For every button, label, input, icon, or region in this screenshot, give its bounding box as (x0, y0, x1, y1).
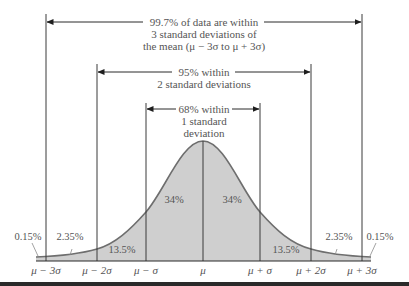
axis-label-plus-3-sigma: μ + 3σ (346, 264, 377, 276)
normal-distribution-diagram: 99.7% of data are within 3 standard devi… (0, 0, 409, 286)
bracket-1sigma-line2: 1 standard (181, 115, 227, 127)
axis-label-minus-2-sigma: μ − 2σ (81, 264, 112, 276)
axis-label-mean: μ (199, 264, 206, 276)
axis-label-minus-1-sigma: μ − σ (133, 264, 158, 276)
region-right-1-2: 13.5% (272, 244, 299, 255)
bracket-1sigma-line3: deviation (184, 127, 225, 139)
region-left-1-2: 13.5% (108, 244, 135, 255)
leader-left-tail (32, 243, 38, 256)
region-left-2-3: 2.35% (56, 231, 83, 242)
region-right-0-1: 34% (222, 194, 242, 205)
bracket-2sigma-line1: 95% within (178, 66, 230, 78)
axis-label-plus-1-sigma: μ + σ (247, 264, 272, 276)
region-left-tail: 0.15% (14, 231, 41, 242)
axis-label-plus-2-sigma: μ + 2σ (295, 264, 326, 276)
bracket-1sigma-line1: 68% within (178, 103, 230, 115)
axis-label-minus-3-sigma: μ − 3σ (30, 264, 61, 276)
bottom-border-bar (0, 282, 409, 286)
bracket-2sigma-line2: 2 standard deviations (157, 78, 250, 90)
bracket-3sigma-line3: the mean (μ − 3σ to μ + 3σ) (143, 40, 266, 53)
leader-right-tail (370, 243, 376, 256)
bracket-3sigma-line2: 3 standard deviations of (151, 28, 257, 40)
region-left-0-1: 34% (164, 194, 184, 205)
region-right-2-3: 2.35% (325, 231, 352, 242)
bracket-3sigma-line1: 99.7% of data are within (150, 16, 259, 28)
region-right-tail: 0.15% (366, 231, 393, 242)
